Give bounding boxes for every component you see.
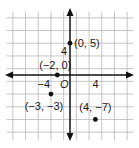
origin-label: O [60, 78, 69, 90]
point-label: (0, 5) [74, 37, 100, 49]
data-point [93, 117, 98, 122]
data-point [49, 92, 54, 97]
data-point [68, 41, 73, 46]
point-label: (4, −7) [79, 101, 111, 113]
coordinate-plane: −444 O (0, 5)(−2, 0)(−3, −3)(4, −7) [0, 0, 139, 148]
x-axis-left-arrow-icon [5, 72, 13, 79]
tick-label-x: 4 [92, 78, 98, 90]
y-axis-down-arrow-icon [67, 133, 74, 141]
y-axis-up-arrow-icon [67, 8, 74, 16]
point-label: (−3, −3) [25, 100, 64, 112]
tick-label-x: −4 [38, 78, 51, 90]
x-axis-right-arrow-icon [126, 72, 134, 79]
data-point [55, 73, 60, 78]
tick-label-y: 4 [61, 45, 67, 57]
point-label: (−2, 0) [39, 59, 71, 71]
